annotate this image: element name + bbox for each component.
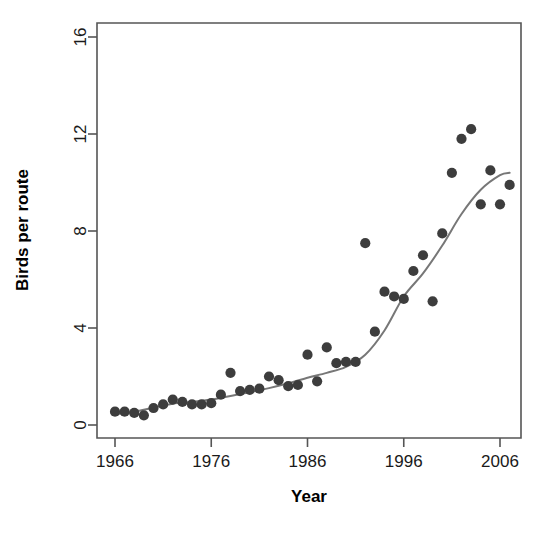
data-point <box>235 386 245 396</box>
data-point <box>399 294 409 304</box>
data-point <box>418 250 428 260</box>
y-tick-label: 0 <box>71 420 90 429</box>
axes-group <box>97 23 521 438</box>
data-point <box>245 385 255 395</box>
data-point <box>139 410 149 420</box>
data-point <box>148 403 158 413</box>
x-tick-label: 1986 <box>289 452 327 471</box>
tick-labels-group: 196619761986199620060481216 <box>71 28 519 471</box>
scatter-plot: 196619761986199620060481216 Year Birds p… <box>0 0 547 537</box>
data-point <box>447 168 457 178</box>
data-point <box>428 296 438 306</box>
data-point <box>158 399 168 409</box>
data-point <box>120 407 130 417</box>
data-point <box>341 357 351 367</box>
y-tick-label: 8 <box>71 226 90 235</box>
data-point <box>331 358 341 368</box>
data-point <box>322 342 332 352</box>
x-tick-label: 2006 <box>481 452 519 471</box>
x-tick-label: 1996 <box>385 452 423 471</box>
x-tick-label: 1976 <box>192 452 230 471</box>
loess-smooth-path <box>115 173 510 414</box>
data-point <box>312 376 322 386</box>
data-point <box>495 199 505 209</box>
data-point <box>293 380 303 390</box>
data-point <box>437 228 447 238</box>
y-tick-label: 16 <box>71 28 90 47</box>
data-point <box>351 357 361 367</box>
loess-smooth-line <box>115 173 510 414</box>
data-point <box>254 384 264 394</box>
data-point <box>110 407 120 417</box>
data-point <box>187 399 197 409</box>
data-point <box>197 399 207 409</box>
data-point <box>206 398 216 408</box>
data-point <box>283 381 293 391</box>
data-point <box>389 291 399 301</box>
y-tick-label: 12 <box>71 125 90 144</box>
data-point <box>274 375 284 385</box>
x-axis-title: Year <box>291 487 327 506</box>
data-point <box>177 397 187 407</box>
plot-frame <box>97 23 521 438</box>
data-point <box>505 180 515 190</box>
data-point <box>129 408 139 418</box>
y-axis-title: Birds per route <box>13 169 32 291</box>
data-point <box>370 327 380 337</box>
data-point <box>466 124 476 134</box>
data-point <box>302 350 312 360</box>
data-point <box>216 390 226 400</box>
data-point <box>168 394 178 404</box>
data-point <box>456 134 466 144</box>
data-point <box>485 165 495 175</box>
data-point <box>264 371 274 381</box>
data-point <box>408 266 418 276</box>
chart-figure: 196619761986199620060481216 Year Birds p… <box>0 0 547 537</box>
data-point <box>225 368 235 378</box>
x-tick-label: 1966 <box>96 452 134 471</box>
y-tick-label: 4 <box>71 323 90 332</box>
data-point <box>379 287 389 297</box>
data-point <box>360 238 370 248</box>
data-point <box>476 199 486 209</box>
